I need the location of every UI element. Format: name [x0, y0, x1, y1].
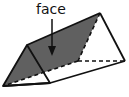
- triangular-prism-diagram: face: [0, 0, 129, 97]
- face-label: face: [36, 1, 66, 17]
- back-right-edge: [100, 13, 125, 61]
